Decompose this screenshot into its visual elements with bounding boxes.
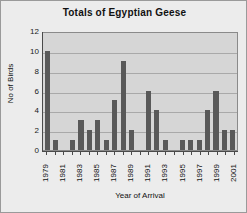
x-tick-label: 1983: [76, 164, 84, 182]
bar-slot: [127, 33, 135, 150]
bar-slot: [68, 33, 76, 150]
bar[interactable]: [188, 140, 193, 150]
x-axis-title: Year of Arrival: [42, 191, 238, 200]
bar-slot: [43, 33, 51, 150]
x-tick-mark: [114, 152, 115, 155]
bar[interactable]: [129, 130, 134, 150]
x-tick-slot: 2001: [229, 152, 238, 190]
x-tick-slot: 1987: [110, 152, 119, 190]
x-tick-slot: 1985: [93, 152, 102, 190]
bar[interactable]: [112, 100, 117, 150]
x-tick-slot: 1981: [59, 152, 68, 190]
x-tick-mark: [106, 152, 107, 155]
bar[interactable]: [205, 110, 210, 150]
x-tick-label: 1999: [213, 164, 221, 182]
bar-series: [43, 33, 237, 150]
bar-slot: [94, 33, 102, 150]
x-tick-slot: 1997: [195, 152, 204, 190]
bar[interactable]: [197, 140, 202, 150]
y-tick-label: 12: [23, 28, 39, 36]
bar-slot: [51, 33, 59, 150]
x-tick-slot: [187, 152, 196, 190]
x-tick-label: 1979: [42, 164, 50, 182]
x-tick-mark: [72, 152, 73, 155]
y-axis-tick-labels: 024681012: [19, 1, 39, 213]
y-axis-line: [42, 32, 43, 152]
bar[interactable]: [213, 91, 218, 151]
x-tick-label: 1981: [59, 164, 67, 182]
bar[interactable]: [70, 140, 75, 150]
bar-slot: [220, 33, 228, 150]
x-tick-label: 2001: [230, 164, 238, 182]
x-tick-mark: [208, 152, 209, 155]
x-tick-slot: 1991: [144, 152, 153, 190]
x-tick-slot: 1995: [178, 152, 187, 190]
x-tick-mark: [225, 152, 226, 155]
y-tick-label: 4: [23, 107, 39, 115]
x-tick-slot: [170, 152, 179, 190]
x-tick-slot: 1989: [127, 152, 136, 190]
y-tick-label: 6: [23, 88, 39, 96]
y-tick-label: 0: [23, 147, 39, 155]
bar[interactable]: [121, 61, 126, 150]
x-tick-mark: [217, 152, 218, 155]
x-tick-mark: [140, 152, 141, 155]
x-tick-mark: [234, 152, 235, 155]
x-tick-label: 1995: [179, 164, 187, 182]
bar[interactable]: [53, 140, 58, 150]
x-tick-mark: [63, 152, 64, 155]
bar[interactable]: [45, 51, 50, 150]
x-tick-mark: [157, 152, 158, 155]
y-tick-label: 10: [23, 48, 39, 56]
bar[interactable]: [146, 91, 151, 151]
x-tick-label: 1997: [196, 164, 204, 182]
bar-slot: [212, 33, 220, 150]
bar-slot: [203, 33, 211, 150]
bar[interactable]: [163, 140, 168, 150]
x-tick-slot: 1979: [42, 152, 51, 190]
bar[interactable]: [87, 130, 92, 150]
y-axis-title: No of Birds: [6, 54, 15, 114]
bar-slot: [170, 33, 178, 150]
plot-area: [42, 32, 238, 151]
bar[interactable]: [180, 140, 185, 150]
y-tick-label: 8: [23, 68, 39, 76]
x-tick-label: 1989: [127, 164, 135, 182]
x-tick-mark: [89, 152, 90, 155]
x-tick-mark: [46, 152, 47, 155]
x-tick-mark: [131, 152, 132, 155]
x-tick-label: 1987: [110, 164, 118, 182]
bar-slot: [161, 33, 169, 150]
bar-slot: [60, 33, 68, 150]
bar-slot: [186, 33, 194, 150]
x-axis-tick-labels: 1979198119831985198719891991199319951997…: [42, 152, 238, 190]
bar[interactable]: [222, 130, 227, 150]
bar-slot: [119, 33, 127, 150]
x-tick-mark: [80, 152, 81, 155]
bar-slot: [178, 33, 186, 150]
bar-slot: [77, 33, 85, 150]
y-tick-label: 2: [23, 127, 39, 135]
x-tick-label: 1985: [93, 164, 101, 182]
x-tick-label: 1991: [144, 164, 152, 182]
bar[interactable]: [78, 120, 83, 150]
x-tick-slot: 1993: [161, 152, 170, 190]
x-tick-mark: [97, 152, 98, 155]
bar-slot: [85, 33, 93, 150]
bar-slot: [102, 33, 110, 150]
x-tick-mark: [183, 152, 184, 155]
bar[interactable]: [230, 130, 235, 150]
x-tick-mark: [123, 152, 124, 155]
bar-slot: [136, 33, 144, 150]
bar-slot: [195, 33, 203, 150]
x-tick-slot: 1983: [76, 152, 85, 190]
bar-slot: [144, 33, 152, 150]
x-tick-mark: [55, 152, 56, 155]
x-tick-mark: [200, 152, 201, 155]
bar[interactable]: [95, 120, 100, 150]
chart-container: Totals of Egyptian Geese No of Birds 024…: [0, 0, 247, 213]
x-tick-mark: [165, 152, 166, 155]
bar-slot: [153, 33, 161, 150]
bar[interactable]: [154, 110, 159, 150]
bar[interactable]: [104, 140, 109, 150]
